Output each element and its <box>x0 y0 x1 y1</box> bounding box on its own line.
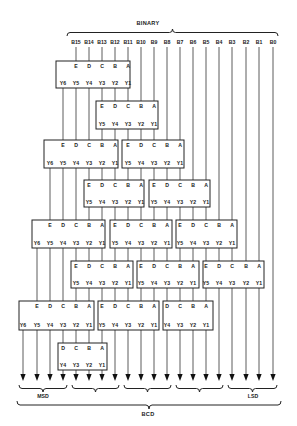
output-pin-label: Y4 <box>112 121 118 127</box>
arrow-down-icon <box>60 374 65 381</box>
converter-block-outline <box>56 61 130 88</box>
arrow-down-icon <box>47 374 52 381</box>
output-pin-label: Y2 <box>112 280 118 286</box>
input-pin-label: C <box>74 345 78 351</box>
output-pin-label: Y4 <box>60 240 66 246</box>
arrow-down-icon <box>190 374 195 381</box>
input-pin-label: D <box>87 63 91 69</box>
output-pin-label: Y3 <box>177 322 183 328</box>
binary-title: BINARY <box>136 20 159 26</box>
output-pin-label: Y1 <box>164 240 170 246</box>
arrow-down-icon <box>270 374 275 381</box>
input-pin-label: A <box>257 263 261 269</box>
output-pin-label: Y3 <box>177 199 183 205</box>
output-pin-label: Y2 <box>190 322 196 328</box>
output-pin-label: Y5 <box>112 240 118 246</box>
input-pin-label: C <box>113 182 117 188</box>
output-pin-label: Y4 <box>164 199 170 205</box>
output-pin-label: Y5 <box>203 280 209 286</box>
output-pin-label: Y3 <box>73 362 79 368</box>
input-pin-label: D <box>48 303 52 309</box>
bcd-digit-brace <box>72 385 119 392</box>
output-pin-label: Y1 <box>151 121 157 127</box>
converter-block-b3: EDCBAY6Y5Y4Y3Y2Y1 <box>44 140 118 168</box>
bcd-digit-brace <box>19 385 67 392</box>
input-pin-label: B <box>191 182 195 188</box>
binary-bit-label: B4 <box>216 39 223 45</box>
input-pin-label: E <box>100 103 104 109</box>
input-pin-label: A <box>126 263 130 269</box>
output-pin-label: Y1 <box>99 362 105 368</box>
output-pin-label: Y3 <box>164 280 170 286</box>
output-pin-label: Y2 <box>177 280 183 286</box>
converter-block-b13: EDCBAY6Y5Y4Y3Y2Y1 <box>19 301 94 330</box>
input-pin-label: B <box>139 303 143 309</box>
input-pin-label: E <box>87 182 91 188</box>
binary-bit-label: B3 <box>229 39 236 45</box>
output-pin-label: Y2 <box>73 322 79 328</box>
bcd-title: BCD <box>141 411 154 417</box>
output-pin-label: Y6 <box>60 80 66 86</box>
arrow-down-icon <box>177 374 182 381</box>
arrow-down-icon <box>256 374 261 381</box>
output-pin-label: Y3 <box>99 280 105 286</box>
binary-bit-label: B2 <box>243 39 250 45</box>
input-pin-label: B <box>191 303 195 309</box>
input-pin-label: D <box>165 182 169 188</box>
input-pin-label: A <box>191 263 195 269</box>
input-pin-label: D <box>217 263 221 269</box>
input-pin-label: E <box>152 182 156 188</box>
converter-block-b10: EDCBAY5Y4Y3Y2Y1 <box>71 261 133 288</box>
converter-block-b16: DCBAY4Y3Y2Y1 <box>58 343 107 370</box>
output-pin-label: Y4 <box>216 280 222 286</box>
converter-block-outline <box>44 140 118 168</box>
output-pin-label: Y5 <box>99 121 105 127</box>
input-pin-label: C <box>204 222 208 228</box>
output-pin-label: Y5 <box>125 160 131 166</box>
bcd-digit-brace <box>228 385 277 392</box>
converter-block-b4: EDCBAY5Y4Y3Y2Y1 <box>122 140 184 168</box>
input-pin-label: D <box>113 103 117 109</box>
output-pin-label: Y5 <box>151 199 157 205</box>
output-pin-label: Y3 <box>125 322 131 328</box>
input-pin-label: C <box>230 263 234 269</box>
binary-bit-label: B5 <box>203 39 210 45</box>
output-pin-label: Y1 <box>112 160 118 166</box>
output-pin-label: Y4 <box>86 80 92 86</box>
converter-block-outline <box>19 301 94 330</box>
output-pin-label: Y1 <box>151 322 157 328</box>
output-pin-label: Y5 <box>34 322 40 328</box>
output-pin-label: Y5 <box>73 80 79 86</box>
input-pin-label: D <box>191 222 195 228</box>
input-pin-label: D <box>126 222 130 228</box>
output-pin-label: Y3 <box>99 80 105 86</box>
arrow-down-icon <box>138 374 143 381</box>
binary-bit-label: B7 <box>177 39 184 45</box>
converter-block-b6: EDCBAY5Y4Y3Y2Y1 <box>149 180 210 207</box>
arrow-down-icon <box>125 374 130 381</box>
input-pin-label: A <box>126 63 130 69</box>
output-pin-label: Y5 <box>73 280 79 286</box>
converter-block-b14: EDCBAY5Y4Y3Y2Y1 <box>98 301 159 330</box>
arrow-down-icon <box>99 374 104 381</box>
output-pin-label: Y3 <box>60 322 66 328</box>
input-pin-label: C <box>126 303 130 309</box>
input-pin-label: A <box>165 222 169 228</box>
output-pin-label: Y2 <box>99 160 105 166</box>
binary-bit-label: B0 <box>270 39 277 45</box>
input-pin-label: D <box>152 263 156 269</box>
binary-bit-label: B6 <box>190 39 197 45</box>
output-pin-label: Y4 <box>60 362 66 368</box>
bcd-digit-brace <box>176 385 223 392</box>
input-pin-label: E <box>178 222 182 228</box>
input-pin-label: D <box>165 303 169 309</box>
binary-bit-label: B10 <box>136 39 146 45</box>
output-pin-label: Y1 <box>203 322 209 328</box>
input-pin-label: E <box>139 263 143 269</box>
binary-to-bcd-diagram: BINARY BCD MSD LSD EDCBAY6Y5Y4Y3Y2Y1EDCB… <box>0 0 297 426</box>
circuit-schematic: EDCBAY6Y5Y4Y3Y2Y1EDCBAY5Y4Y3Y2Y1EDCBAY6Y… <box>0 0 297 426</box>
output-pin-label: Y5 <box>86 199 92 205</box>
input-pin-label: E <box>74 63 78 69</box>
input-pin-label: A <box>100 222 104 228</box>
input-pin-label: B <box>74 303 78 309</box>
